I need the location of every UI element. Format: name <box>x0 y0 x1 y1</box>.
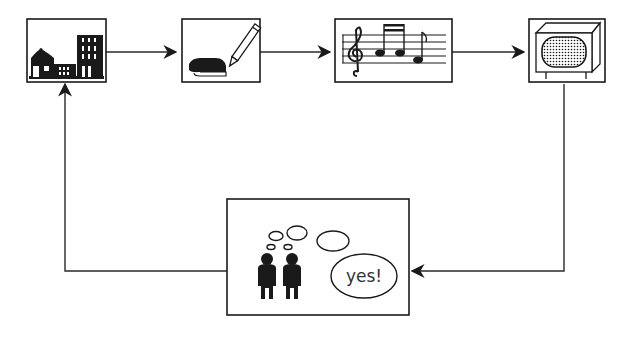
arrow-tv-to-audience <box>412 84 564 271</box>
node-city <box>27 19 106 82</box>
television-icon <box>536 23 600 79</box>
node-music <box>335 19 452 82</box>
arrow-audience-to-city <box>65 84 227 271</box>
node-writing <box>182 19 261 82</box>
node-tv <box>529 19 605 82</box>
cycle-diagram: yes! <box>0 0 632 342</box>
node-audience: yes! <box>227 199 409 315</box>
speech-bubble-text: yes! <box>346 266 382 286</box>
